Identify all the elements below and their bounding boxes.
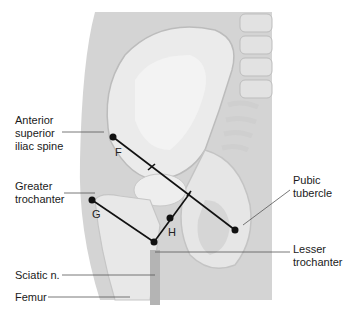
- label-sciatic-nerve: Sciatic n.: [15, 269, 60, 282]
- sciatic-nerve: [150, 250, 160, 305]
- anatomy-figure: Anterior superior iliac spine Greater tr…: [0, 0, 353, 324]
- label-asis: Anterior superior iliac spine: [15, 114, 63, 153]
- label-femur: Femur: [15, 291, 47, 304]
- point-h-label: H: [168, 226, 176, 238]
- label-pubic-tubercle: Pubic tubercle: [293, 174, 332, 200]
- point-f-label: F: [115, 146, 122, 158]
- label-greater-trochanter: Greater trochanter: [15, 180, 65, 206]
- point-g-label: G: [92, 208, 101, 220]
- label-lesser-trochanter: Lesser trochanter: [293, 243, 343, 269]
